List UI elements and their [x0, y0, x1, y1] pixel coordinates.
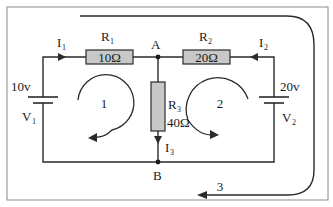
- label-r3: R 3: [168, 97, 181, 114]
- svg-text:I: I: [57, 35, 61, 50]
- current-arrow-i3: [154, 136, 162, 144]
- label-r1: R 1: [101, 29, 114, 46]
- svg-text:R: R: [199, 29, 208, 44]
- label-v2: V 2: [282, 110, 296, 127]
- label-node-b: B: [153, 168, 162, 183]
- current-arrow-i2: [250, 53, 258, 61]
- label-i3: I 3: [165, 140, 174, 157]
- svg-text:R: R: [101, 29, 110, 44]
- svg-text:2: 2: [292, 118, 296, 127]
- svg-text:2: 2: [208, 37, 212, 46]
- svg-text:3: 3: [170, 148, 174, 157]
- loop-3-label: 3: [217, 179, 224, 194]
- r1-value: 10Ω: [98, 50, 121, 65]
- resistor-r3: [151, 82, 165, 131]
- svg-text:3: 3: [177, 105, 181, 114]
- label-v2-voltage: 20v: [280, 79, 300, 94]
- loop-2-label: 2: [217, 96, 224, 111]
- loop-1-arrowhead: [88, 133, 97, 142]
- label-v1: V 1: [22, 109, 36, 126]
- svg-text:V: V: [282, 110, 292, 125]
- label-node-a: A: [151, 37, 161, 52]
- label-i1: I 1: [57, 35, 66, 52]
- svg-text:1: 1: [62, 43, 66, 52]
- label-v1-voltage: 10v: [11, 79, 31, 94]
- label-i2: I 2: [259, 35, 268, 52]
- resistor-r1: 10Ω: [86, 50, 133, 65]
- resistor-r2: 20Ω: [183, 50, 230, 65]
- svg-text:1: 1: [110, 37, 114, 46]
- svg-text:I: I: [165, 140, 169, 155]
- node-a-dot: [156, 55, 161, 60]
- loop-2-arrowhead: [210, 130, 219, 139]
- svg-text:R: R: [168, 97, 177, 112]
- loop-1-label: 1: [101, 96, 108, 111]
- r2-value: 20Ω: [195, 50, 218, 65]
- label-r3-value: 40Ω: [167, 115, 190, 130]
- loop-3-arrow: [80, 16, 314, 195]
- label-r2: R 2: [199, 29, 212, 46]
- loop-3-arrowhead: [197, 191, 207, 199]
- svg-text:V: V: [22, 109, 32, 124]
- circuit-diagram: 10Ω 20Ω I 1 R 1 A R 2 I 2 10v V: [0, 0, 333, 207]
- node-b-dot: [156, 160, 161, 165]
- battery-v1: [28, 97, 58, 103]
- current-arrow-i1: [58, 53, 66, 61]
- svg-text:1: 1: [32, 117, 36, 126]
- svg-text:2: 2: [264, 43, 268, 52]
- svg-text:I: I: [259, 35, 263, 50]
- battery-v2: [259, 97, 289, 103]
